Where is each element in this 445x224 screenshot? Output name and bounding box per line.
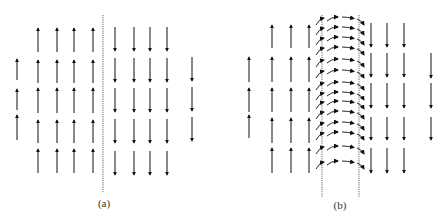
rotating-moment-arrow-icon (316, 60, 324, 67)
rotating-moment-arrow-icon (316, 147, 324, 154)
rotating-moment-arrow-icon (357, 94, 364, 100)
rotating-moment-arrow-icon (316, 133, 324, 140)
rotating-moment-arrow-icon (327, 37, 338, 41)
rotating-moment-arrow-icon (342, 101, 354, 103)
rotating-moment-arrow-icon (342, 59, 354, 61)
rotating-moment-arrow-icon (357, 103, 364, 109)
rotating-moment-arrow-icon (342, 37, 354, 39)
rotating-moment-arrow-icon (342, 47, 354, 49)
magnetic-moment-arrows (17, 17, 431, 175)
rotating-moment-arrow-icon (342, 146, 354, 148)
rotating-moment-arrow-icon (357, 134, 364, 140)
rotating-moment-arrow-icon (342, 27, 354, 29)
rotating-moment-arrow-icon (357, 72, 364, 78)
rotating-moment-arrow-icon (327, 59, 338, 63)
domain-wall-figure: (a) (b) (0, 0, 445, 224)
rotating-moment-arrow-icon (316, 38, 324, 45)
rotating-moment-arrow-icon (357, 19, 364, 25)
rotating-moment-arrow-icon (357, 29, 364, 35)
rotating-moment-arrow-icon (327, 92, 338, 96)
rotating-moment-arrow-icon (327, 82, 338, 86)
rotating-moment-arrow-icon (342, 70, 354, 72)
rotating-moment-arrow-icon (316, 28, 324, 35)
rotating-moment-arrow-icon (357, 39, 364, 45)
rotating-moment-arrow-icon (342, 17, 354, 19)
panel-label-b: (b) (334, 199, 347, 211)
rotating-moment-arrow-icon (327, 161, 338, 165)
rotating-moment-arrow-icon (357, 113, 364, 119)
rotating-moment-arrow-icon (342, 111, 354, 113)
rotating-moment-arrow-icon (316, 162, 324, 169)
rotating-moment-arrow-icon (357, 84, 364, 90)
rotating-moment-arrow-icon (327, 17, 338, 21)
domain-wall-lines (103, 15, 359, 197)
rotating-moment-arrow-icon (327, 146, 338, 150)
rotating-moment-arrow-icon (316, 18, 324, 25)
rotating-moment-arrow-icon (316, 102, 324, 109)
rotating-moment-arrow-icon (357, 61, 364, 67)
rotating-moment-arrow-icon (316, 71, 324, 78)
diagram-canvas (0, 0, 445, 224)
rotating-moment-arrow-icon (316, 112, 324, 119)
rotating-moment-arrow-icon (316, 93, 324, 100)
rotating-moment-arrow-icon (327, 111, 338, 115)
rotating-moment-arrow-icon (327, 101, 338, 105)
rotating-moment-arrow-icon (342, 122, 354, 124)
rotating-moment-arrow-icon (316, 123, 324, 130)
rotating-moment-arrow-icon (357, 163, 364, 169)
rotating-moment-arrow-icon (342, 92, 354, 94)
rotating-moment-arrow-icon (357, 49, 364, 55)
panel-label-a: (a) (98, 197, 110, 209)
rotating-moment-arrow-icon (327, 27, 338, 31)
rotating-moment-arrow-icon (342, 82, 354, 84)
rotating-moment-arrow-icon (316, 83, 324, 90)
rotating-moment-arrow-icon (342, 161, 354, 163)
rotating-moment-arrow-icon (316, 48, 324, 55)
rotating-moment-arrow-icon (327, 47, 338, 51)
rotating-moment-arrow-icon (342, 132, 354, 134)
rotating-moment-arrow-icon (327, 132, 338, 136)
rotating-moment-arrow-icon (327, 70, 338, 74)
rotating-moment-arrow-icon (357, 124, 364, 130)
rotating-moment-arrow-icon (327, 122, 338, 126)
rotating-moment-arrow-icon (357, 148, 364, 154)
